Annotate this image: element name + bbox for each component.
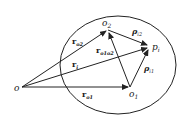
vector-diagram: o o2 o1 pi ro2 ri ro1 ro1o2 ρi2 ρi1 [0, 0, 180, 118]
point-o1-label: o1 [129, 89, 138, 100]
point-pi-label: pi [152, 42, 160, 53]
label-r-o1: ro1 [82, 89, 93, 100]
point-o-label: o [14, 83, 20, 93]
vector-r-o2 [22, 31, 106, 87]
vector-r-o1o2 [109, 33, 130, 87]
label-rho-i1: ρi1 [143, 63, 154, 74]
label-r-o1o2: ro1o2 [96, 45, 114, 56]
label-r-i: ri [72, 59, 78, 70]
label-rho-i2: ρi2 [131, 26, 142, 37]
label-r-o2: ro2 [72, 36, 84, 47]
point-o2-label: o2 [102, 18, 111, 29]
